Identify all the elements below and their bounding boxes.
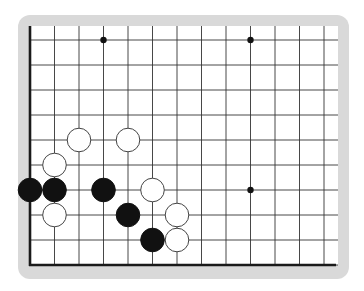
black-stone	[18, 178, 42, 202]
star-point	[247, 37, 253, 43]
black-stone	[43, 178, 67, 202]
white-stone	[116, 128, 140, 152]
white-stone	[165, 228, 189, 252]
star-point	[247, 187, 253, 193]
white-stone	[43, 153, 67, 177]
black-stone	[141, 228, 165, 252]
white-stone	[43, 203, 67, 227]
white-stone	[165, 203, 189, 227]
white-stone	[141, 178, 165, 202]
white-stone	[67, 128, 91, 152]
go-board	[0, 0, 364, 291]
black-stone	[92, 178, 116, 202]
black-stone	[116, 203, 140, 227]
star-point	[100, 37, 106, 43]
